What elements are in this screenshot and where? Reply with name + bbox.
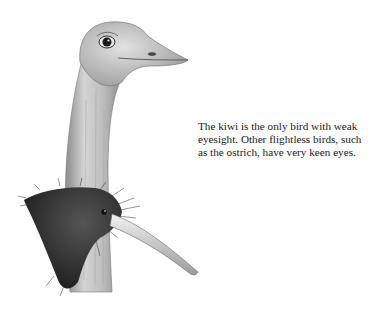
kiwi-beak <box>110 214 198 275</box>
caption-text: The kiwi is the only bird with weak eyes… <box>198 120 368 160</box>
kiwi-eye-icon <box>101 209 108 216</box>
ostrich-head <box>80 22 188 86</box>
